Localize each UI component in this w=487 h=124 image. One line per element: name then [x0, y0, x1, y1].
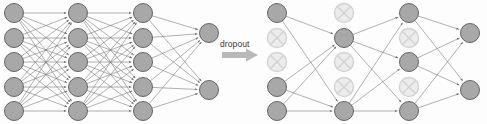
network-edge	[149, 20, 201, 81]
dropout-arrow-icon	[222, 49, 258, 62]
network-edge	[150, 40, 200, 81]
network-edge	[152, 94, 198, 109]
active-neuron	[335, 29, 354, 48]
network-edge	[152, 66, 198, 86]
network-edge	[152, 38, 199, 58]
active-neuron	[400, 102, 419, 121]
active-neuron	[69, 102, 88, 121]
network-diagram-canvas	[0, 0, 487, 124]
active-neuron	[200, 81, 219, 100]
active-neuron	[5, 78, 24, 97]
nodes-group	[5, 4, 480, 121]
active-neuron	[134, 78, 153, 97]
active-neuron	[69, 53, 88, 72]
network-edge	[149, 42, 201, 104]
annotation-group	[222, 49, 258, 62]
network-edge	[83, 23, 136, 103]
network-edge	[415, 42, 463, 103]
network-edge	[286, 16, 333, 34]
active-neuron	[69, 29, 88, 48]
active-neuron	[69, 4, 88, 23]
active-neuron	[335, 102, 354, 121]
network-edge	[353, 17, 398, 34]
active-neuron	[268, 4, 287, 23]
network-edge	[23, 17, 67, 34]
active-neuron	[5, 4, 24, 23]
network-edge	[20, 20, 70, 78]
dropout-figure: dropout	[0, 0, 487, 124]
active-neuron	[400, 4, 419, 23]
active-neuron	[134, 53, 153, 72]
network-edge	[84, 22, 135, 80]
network-edge	[285, 45, 335, 81]
network-edge	[286, 90, 333, 107]
active-neuron	[5, 29, 24, 48]
active-neuron	[400, 53, 419, 72]
active-neuron	[461, 81, 480, 100]
active-neuron	[268, 78, 287, 97]
network-edge	[152, 16, 198, 30]
active-neuron	[134, 4, 153, 23]
dropout-label: dropout	[220, 40, 250, 49]
network-edge	[282, 21, 337, 101]
network-edge	[150, 44, 199, 83]
network-edge	[87, 17, 132, 34]
network-edge	[20, 22, 70, 80]
active-neuron	[461, 24, 480, 43]
network-edge	[349, 23, 402, 103]
active-neuron	[69, 78, 88, 97]
network-edge	[418, 16, 459, 29]
network-edge	[418, 94, 459, 108]
network-edge	[283, 47, 336, 104]
active-neuron	[5, 53, 24, 72]
network-edge	[352, 69, 400, 105]
network-edge	[415, 20, 463, 80]
active-neuron	[200, 24, 219, 43]
network-edge	[87, 90, 132, 107]
active-neuron	[268, 102, 287, 121]
network-edge	[19, 23, 71, 103]
active-neuron	[5, 102, 24, 121]
active-neuron	[134, 29, 153, 48]
network-edge	[84, 20, 135, 78]
network-edge	[23, 90, 67, 107]
active-neuron	[134, 102, 153, 121]
network-edge	[152, 34, 197, 37]
network-edge	[152, 87, 197, 89]
